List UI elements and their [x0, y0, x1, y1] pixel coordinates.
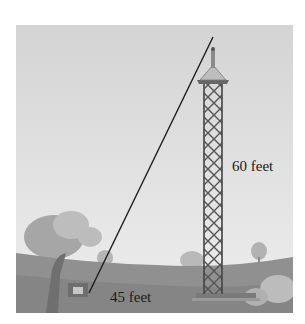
- anchor-box: [68, 283, 88, 297]
- tower-diagram: 60 feet 45 feet: [16, 25, 293, 313]
- base-label: 45 feet: [110, 289, 152, 305]
- height-label: 60 feet: [232, 158, 274, 174]
